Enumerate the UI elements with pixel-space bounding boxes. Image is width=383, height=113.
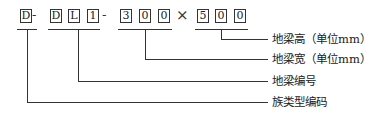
label-beam-height: 地梁高（单位mm） xyxy=(272,32,371,46)
code-char-box: 3 xyxy=(120,9,132,23)
underline-beam-number xyxy=(48,29,100,30)
code-char-box: D xyxy=(50,9,62,23)
leader-line xyxy=(221,39,268,40)
separator-dash: - xyxy=(102,7,106,23)
code-char-box: 5 xyxy=(197,9,209,23)
code-char-box: 1 xyxy=(87,9,99,23)
code-char-box: 0 xyxy=(158,9,170,23)
code-char-box: D xyxy=(20,9,32,23)
code-char-box: 0 xyxy=(234,9,246,23)
code-char-box: L xyxy=(68,9,80,23)
separator-dash: - xyxy=(32,7,36,23)
leader-line xyxy=(78,81,268,82)
label-beam-width: 地梁宽（单位mm） xyxy=(272,52,371,66)
code-char-box: 0 xyxy=(139,9,151,23)
code-char-box: 0 xyxy=(215,9,227,23)
leader-line xyxy=(145,59,268,60)
separator-times: × xyxy=(176,7,189,23)
label-beam-number: 地梁编号 xyxy=(272,74,316,88)
leader-line xyxy=(27,102,268,103)
leader-line xyxy=(145,29,146,60)
leader-line xyxy=(78,29,79,82)
leader-line xyxy=(27,29,28,103)
label-family-type-code: 族类型编码 xyxy=(272,95,327,109)
